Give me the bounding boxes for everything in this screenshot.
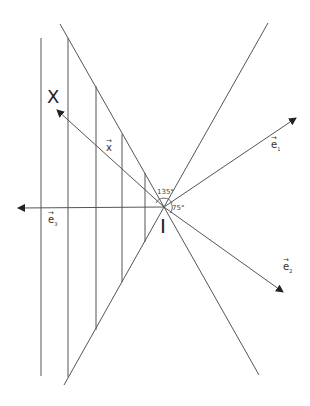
vector-e2-arrow: [164, 207, 283, 292]
cone-line-upper-right: [164, 23, 268, 207]
vector-x-arrow: [57, 110, 164, 207]
cone-line-upper-left: [60, 24, 164, 207]
point-i-label: I: [160, 216, 166, 236]
vector-e2-label: →e2: [283, 262, 292, 274]
cone-line-lower-right: [164, 207, 259, 375]
angle-75-label: 75°: [172, 205, 184, 212]
cone-line-lower-left: [64, 207, 164, 385]
vector-e3-arrow: [18, 207, 164, 208]
vector-x-label: →x: [106, 143, 112, 153]
vector-e3-label: →e3: [48, 215, 57, 227]
vector-e1-label: →e1: [271, 140, 280, 152]
vector-e1-arrow: [164, 118, 296, 207]
diagram-canvas: [0, 0, 310, 406]
point-x-label: X: [47, 88, 59, 106]
angle-135-label: 135°: [157, 189, 174, 196]
